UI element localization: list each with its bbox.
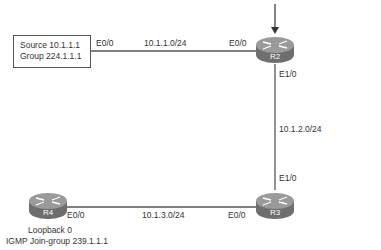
r4-loopback-label: Loopback 0 [28,226,72,235]
source-intf-label: E0/0 [96,39,114,48]
source-address: Source 10.1.1.1 [20,40,90,51]
subnet-label-1: 10.1.1.0/24 [144,39,187,48]
source-box: Source 10.1.1.1 Group 224.1.1.1 [13,35,91,68]
r2-e10-label: E1/0 [279,70,297,79]
r4-e00-label: E0/0 [67,211,85,220]
subnet-label-3: 10.1.3.0/24 [142,211,185,220]
r2-e00-label: E0/0 [229,39,247,48]
router-label-r4: R4 [43,209,53,217]
r3-e10-label: E1/0 [279,174,297,183]
router-label-r2: R2 [270,53,280,61]
group-address: Group 224.1.1.1 [20,51,90,62]
router-r3[interactable]: R3 [255,192,295,220]
router-r4[interactable]: R4 [28,192,68,220]
r4-igmp-label: IGMP Join-group 239.1.1.1 [6,237,108,246]
router-r2[interactable]: R2 [255,36,295,64]
arrow-head-icon [271,27,279,34]
router-label-r3: R3 [270,209,280,217]
r3-e00-label: E0/0 [228,211,246,220]
subnet-label-2: 10.1.2.0/24 [279,125,322,134]
